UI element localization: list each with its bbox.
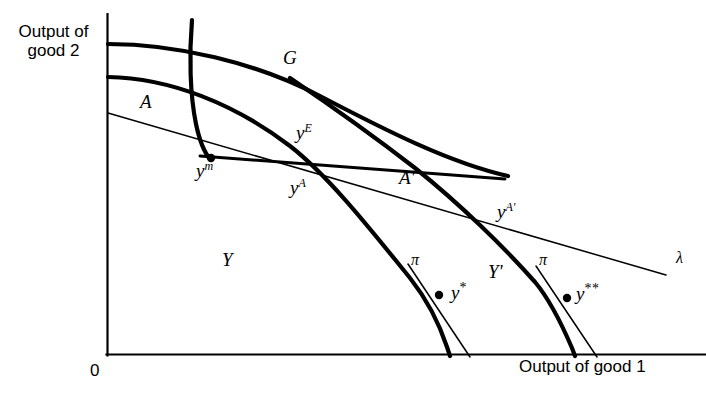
point-label-ystar-sup: * (459, 280, 467, 295)
point-label-ym-sup: m (204, 159, 213, 173)
label-pi-left: π (411, 252, 419, 269)
line-pi-right (536, 266, 597, 357)
point-label-ystar: y* (451, 281, 467, 303)
y-axis-title: Output of good 2 (6, 22, 101, 60)
curve-label-A: A (140, 92, 152, 112)
point-ystarstar-dot (563, 294, 571, 302)
curve-label-A-prime: A' (399, 168, 415, 188)
point-ystar-dot (435, 291, 443, 299)
point-label-yA-prime: yA' (497, 201, 515, 222)
region-label-Y-prime: Y' (488, 262, 503, 282)
y-axis-title-line2: good 2 (6, 41, 101, 60)
diagram-canvas (0, 0, 706, 414)
curve-label-G: G (283, 48, 297, 68)
curve-Y-frontier (108, 77, 450, 356)
point-label-yE: yE (296, 122, 312, 143)
point-label-yE-sup: E (304, 121, 311, 135)
point-label-ystarstar: y** (576, 282, 599, 304)
origin-label: 0 (90, 362, 99, 380)
region-label-Y: Y (222, 250, 233, 270)
point-label-yA-prime-sup: A' (505, 200, 515, 214)
label-pi-right: π (539, 252, 547, 269)
y-axis-title-line1: Output of (6, 22, 101, 41)
x-axis-title: Output of good 1 (519, 358, 646, 376)
point-label-yA-sup: A (298, 176, 305, 190)
line-pi-left (408, 264, 470, 357)
economics-production-frontier-diagram: Output of good 2 Output of good 1 0 G A … (0, 0, 706, 414)
point-label-ystarstar-sup: ** (584, 281, 599, 296)
label-lambda: λ (676, 250, 683, 267)
point-label-ym: ym (196, 160, 213, 181)
curve-G (108, 44, 508, 176)
point-label-yA: yA (290, 177, 306, 198)
